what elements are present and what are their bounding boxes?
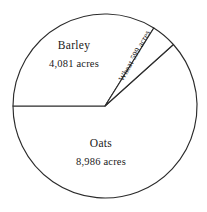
- pie-chart-svg: [0, 0, 207, 212]
- pie-label-barley-value: 4,081 acres: [22, 59, 126, 70]
- pie-label-barley: Barley 4,081 acres: [22, 40, 126, 69]
- pie-chart-figure: Barley 4,081 acres Oats 8,986 acres Whea…: [0, 0, 207, 212]
- pie-label-oats-value: 8,986 acres: [46, 157, 156, 168]
- pie-label-barley-name: Barley: [22, 40, 126, 52]
- pie-label-oats: Oats 8,986 acres: [46, 138, 156, 167]
- pie-label-oats-name: Oats: [46, 138, 156, 150]
